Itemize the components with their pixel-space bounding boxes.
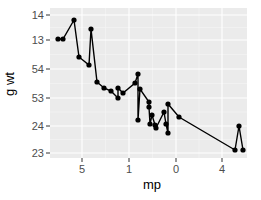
- data-point: [115, 95, 120, 100]
- data-point: [71, 17, 76, 22]
- data-point: [163, 121, 168, 126]
- y-tick-label: 23: [32, 147, 44, 159]
- data-point: [132, 80, 137, 85]
- y-tick-label: 54: [32, 63, 44, 75]
- y-tick-label: 14: [32, 9, 44, 21]
- data-point: [137, 86, 142, 91]
- x-tick-label: 1: [126, 163, 132, 175]
- data-point: [153, 125, 158, 130]
- data-point: [86, 62, 91, 67]
- x-tick-label: 0: [173, 163, 179, 175]
- data-point: [135, 117, 140, 122]
- x-tick-label: 5: [79, 163, 85, 175]
- data-point: [161, 109, 166, 114]
- data-point: [94, 79, 99, 84]
- data-point: [165, 101, 170, 106]
- data-point: [176, 114, 181, 119]
- x-axis-title: mp: [143, 177, 161, 192]
- data-point: [108, 88, 113, 93]
- data-point: [115, 85, 120, 90]
- y-tick-label: 24: [32, 120, 44, 132]
- data-point: [149, 112, 154, 117]
- data-point: [88, 26, 93, 31]
- y-tick-label: 13: [32, 34, 44, 46]
- x-axis-ticks: 5104: [79, 158, 225, 175]
- data-point: [146, 99, 151, 104]
- line-chart: 141354532423 5104 mp g wt: [0, 0, 261, 200]
- data-point: [60, 36, 65, 41]
- x-tick-label: 4: [219, 163, 225, 175]
- data-point: [135, 71, 140, 76]
- data-point: [120, 90, 125, 95]
- data-point: [232, 147, 237, 152]
- data-point: [147, 121, 152, 126]
- data-point: [55, 36, 60, 41]
- data-point: [76, 54, 81, 59]
- y-axis-ticks: 141354532423: [32, 9, 50, 159]
- data-point: [240, 147, 245, 152]
- data-point: [165, 130, 170, 135]
- plot-panel: [50, 8, 247, 158]
- y-tick-label: 53: [32, 92, 44, 104]
- y-axis-title: g wt: [2, 72, 17, 96]
- data-point: [101, 85, 106, 90]
- data-point: [236, 123, 241, 128]
- data-point: [146, 104, 151, 109]
